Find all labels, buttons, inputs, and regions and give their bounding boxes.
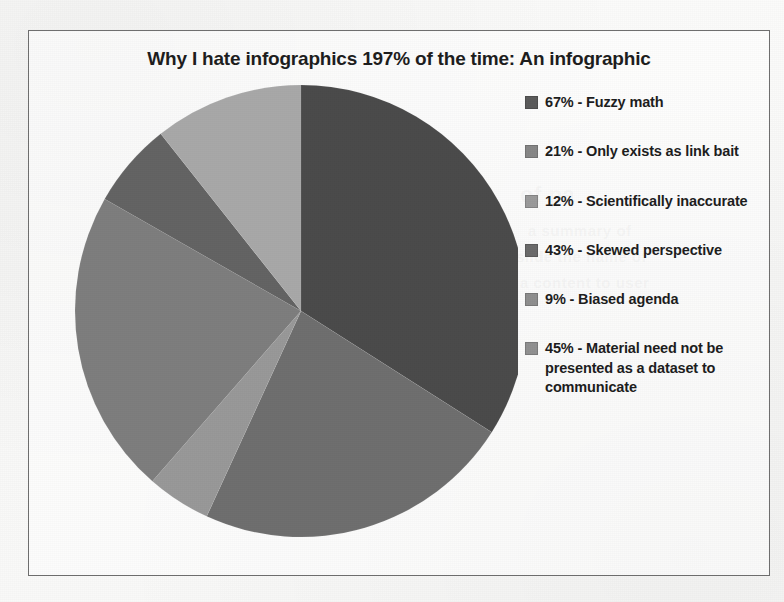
- legend-swatch-icon: [525, 145, 538, 158]
- legend-item[interactable]: 21% - Only exists as link bait: [525, 142, 765, 161]
- legend-item-label: 45% - Material need not be presented as …: [545, 339, 765, 397]
- legend-item[interactable]: 43% - Skewed perspective: [525, 241, 765, 260]
- pie-slice-group: [75, 85, 518, 537]
- legend-item[interactable]: 45% - Material need not be presented as …: [525, 339, 765, 397]
- legend-swatch-icon: [525, 195, 538, 208]
- chart-frame: Why I hate infographics 197% of the time…: [28, 30, 770, 576]
- legend-swatch-icon: [525, 96, 538, 109]
- pie-chart: [48, 61, 518, 561]
- legend-item-label: 43% - Skewed perspective: [545, 241, 722, 260]
- legend-item[interactable]: 9% - Biased agenda: [525, 290, 765, 309]
- chart-legend: 67% - Fuzzy math21% - Only exists as lin…: [525, 93, 765, 427]
- legend-item[interactable]: 12% - Scientifically inaccurate: [525, 192, 765, 211]
- legend-item-label: 21% - Only exists as link bait: [545, 142, 739, 161]
- legend-item-label: 12% - Scientifically inaccurate: [545, 192, 747, 211]
- legend-item-label: 67% - Fuzzy math: [545, 93, 663, 112]
- legend-item-label: 9% - Biased agenda: [545, 290, 679, 309]
- pie-chart-svg: [48, 61, 518, 561]
- legend-swatch-icon: [525, 293, 538, 306]
- legend-swatch-icon: [525, 244, 538, 257]
- legend-item[interactable]: 67% - Fuzzy math: [525, 93, 765, 112]
- legend-swatch-icon: [525, 342, 538, 355]
